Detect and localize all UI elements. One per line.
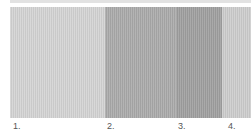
top-divider [10, 0, 251, 3]
band-1 [10, 7, 105, 118]
band-label-1: 1. [13, 121, 21, 131]
band-label-3: 3. [178, 121, 186, 131]
band-3 [176, 7, 222, 118]
band-label-4: 4. [228, 121, 236, 131]
band-label-2: 2. [107, 121, 115, 131]
band-4 [222, 7, 251, 118]
band-2 [105, 7, 176, 118]
